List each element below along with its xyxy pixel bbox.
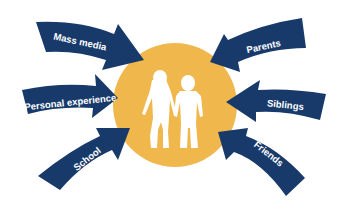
arrow-mass-media: Mass media [36, 22, 144, 70]
arrow-school: School [38, 128, 130, 190]
arrow-personal-experience: Personal experience [22, 74, 118, 118]
influence-diagram: Mass media Personal experience School Pa… [0, 0, 342, 212]
arrow-friends: Friends [218, 128, 305, 196]
arrow-parents: Parents [210, 18, 306, 72]
arrow-siblings: Siblings [226, 80, 326, 122]
